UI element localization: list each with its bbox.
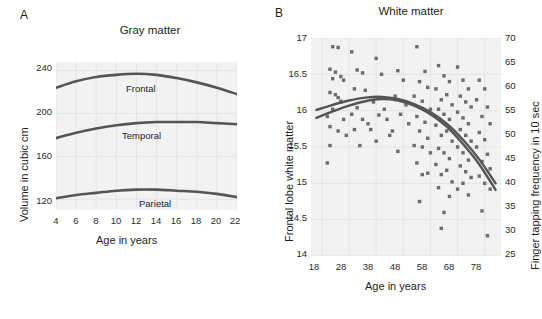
panel-a-xtick-4: 4 (48, 216, 64, 226)
panel-b-y2tick-35: 35 (505, 201, 527, 211)
panel-b-xtick-48: 48 (385, 262, 405, 272)
panel-b-xtick-18: 18 (304, 262, 324, 272)
panel-a-xtick-12: 12 (128, 216, 144, 226)
panel-a-title: Gray matter (60, 24, 240, 36)
panel-b-ytick-16-5: 16.5 (275, 69, 307, 79)
panel-b-plot-area (311, 38, 501, 256)
panel-a-xtick-8: 8 (88, 216, 104, 226)
panel-b-title: White matter (311, 5, 511, 17)
panel-b-y2-axis-title: Finger tapping frequency in 10 sec (529, 101, 541, 270)
panel-b-white-matter: B White matter Frontal lobe white matter… (271, 0, 542, 319)
panel-b-y2tick-30: 30 (505, 225, 527, 235)
panel-b-xtick-28: 28 (331, 262, 351, 272)
panel-b-y2tick-60: 60 (505, 81, 527, 91)
panel-a-curve-label-frontal: Frontal (126, 83, 156, 94)
panel-b-y2tick-70: 70 (505, 33, 527, 43)
panel-a-x-axis-title: Age in years (96, 234, 157, 246)
panel-b-ytick-16-0: 16 (275, 105, 307, 115)
figure-root: A Gray matter Volume in cubic cm 240 200… (0, 0, 542, 319)
panel-b-y2tick-55: 55 (505, 105, 527, 115)
panel-a-xtick-22: 22 (227, 216, 243, 226)
panel-a-ytick-200: 200 (26, 107, 52, 117)
panel-a-letter: A (20, 8, 28, 22)
panel-b-ytick-17-0: 17 (275, 33, 307, 43)
panel-a-xtick-10: 10 (108, 216, 124, 226)
panel-b-ytick-14-0: 14 (275, 249, 307, 259)
panel-a-xtick-14: 14 (148, 216, 164, 226)
panel-b-xtick-58: 58 (412, 262, 432, 272)
panel-a-xtick-18: 18 (188, 216, 204, 226)
panel-b-scatter (311, 38, 501, 256)
panel-a-curve-label-parietal: Parietal (139, 198, 171, 209)
panel-b-xtick-78: 78 (466, 262, 486, 272)
panel-b-ytick-15-5: 15.5 (275, 141, 307, 151)
panel-b-x-axis-title: Age in years (365, 280, 426, 292)
panel-a-ytick-160: 160 (26, 151, 52, 161)
panel-a-ytick-240: 240 (26, 63, 52, 73)
panel-b-letter: B (275, 6, 283, 20)
panel-b-y2tick-45: 45 (505, 153, 527, 163)
panel-a-curve-label-temporal: Temporal (122, 130, 161, 141)
panel-b-xtick-68: 68 (439, 262, 459, 272)
panel-b-y2tick-65: 65 (505, 57, 527, 67)
panel-b-ytick-14-5: 14.5 (275, 213, 307, 223)
panel-b-ytick-15-0: 15 (275, 177, 307, 187)
panel-a-xtick-20: 20 (208, 216, 224, 226)
panel-b-xtick-38: 38 (358, 262, 378, 272)
panel-a-ytick-120: 120 (26, 196, 52, 206)
panel-b-y2tick-25: 25 (505, 249, 527, 259)
panel-a-xtick-16: 16 (168, 216, 184, 226)
panel-b-y2tick-40: 40 (505, 177, 527, 187)
panel-b-y2tick-50: 50 (505, 129, 527, 139)
panel-a-xtick-6: 6 (68, 216, 84, 226)
panel-a-gray-matter: A Gray matter Volume in cubic cm 240 200… (0, 0, 271, 319)
panel-a-y-axis-title: Volume in cubic cm (18, 127, 30, 222)
